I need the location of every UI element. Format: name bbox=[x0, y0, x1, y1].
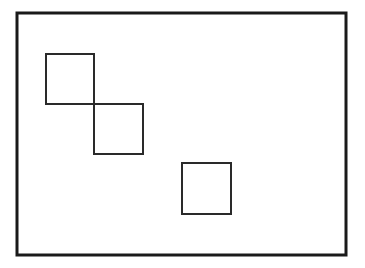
diagram-svg bbox=[0, 0, 365, 268]
square-2 bbox=[94, 104, 143, 154]
squares-group bbox=[46, 54, 231, 214]
square-1 bbox=[46, 54, 94, 104]
diagram-canvas bbox=[0, 0, 365, 268]
square-3 bbox=[182, 163, 231, 214]
outer-frame bbox=[17, 13, 346, 255]
